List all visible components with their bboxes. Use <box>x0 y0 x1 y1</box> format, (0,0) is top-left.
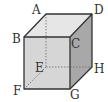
cube-diagram: A D B C E H F G <box>0 0 108 102</box>
vertex-label-b: B <box>12 32 21 46</box>
vertex-label-f: F <box>13 84 21 98</box>
vertex-label-e: E <box>35 61 44 75</box>
front-face <box>24 37 70 89</box>
vertex-label-h: H <box>94 62 104 76</box>
vertex-label-d: D <box>94 3 104 17</box>
vertex-label-c: C <box>71 37 80 51</box>
vertex-label-a: A <box>31 3 41 17</box>
vertex-label-g: G <box>70 88 80 102</box>
